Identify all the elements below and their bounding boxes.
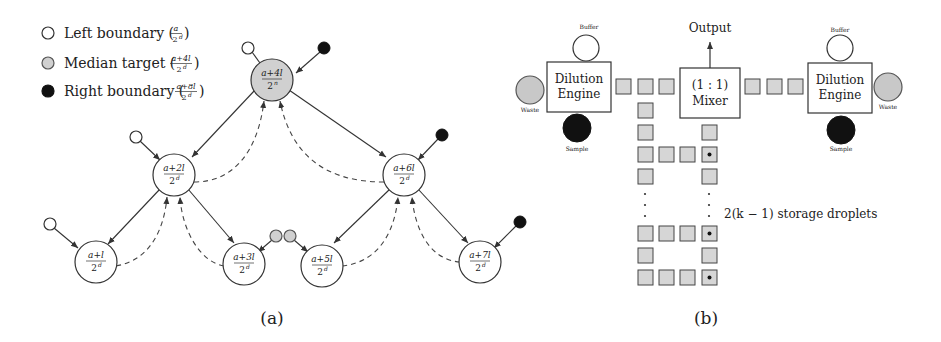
svg-text:d: d (98, 261, 102, 268)
tree-node-level3-1: a+l 2 d (75, 241, 117, 283)
svg-text:2: 2 (399, 176, 405, 186)
waste-label: Waste (521, 106, 540, 113)
storage-label: 2(k − 1) storage droplets (724, 207, 877, 221)
svg-text:2: 2 (169, 176, 175, 186)
gray-circle-icon (270, 230, 282, 242)
svg-text:d: d (246, 263, 250, 270)
svg-text:a+5l: a+5l (311, 254, 333, 264)
buffer-reservoir-icon (573, 35, 599, 61)
svg-text:d: d (324, 265, 328, 272)
black-circle-icon (318, 42, 330, 54)
panel-a: Left boundary ( a 2 d ) Median target ( … (42, 24, 526, 328)
dilution-engine-right: Buffer Dilution Engine Waste Sample (808, 26, 902, 153)
svg-text:Dilution: Dilution (816, 73, 865, 87)
waste-reservoir-icon (874, 73, 902, 101)
svg-text:a+2l: a+2l (163, 163, 185, 173)
sample-label: Sample (830, 145, 853, 153)
sample-reservoir-icon (827, 116, 855, 144)
tree-node-level3-3: a+5l 2 d (301, 245, 343, 287)
svg-text:a+7l: a+7l (469, 250, 491, 260)
svg-text:n: n (274, 79, 278, 86)
waste-reservoir-icon (516, 76, 544, 104)
svg-text:2: 2 (317, 267, 323, 277)
svg-text:a+3l: a+3l (233, 252, 255, 262)
svg-text:d: d (176, 174, 180, 181)
svg-text:a+6l: a+6l (393, 163, 415, 173)
svg-text:a+4l: a+4l (261, 68, 283, 78)
svg-text:2: 2 (181, 93, 186, 102)
caption-b: (b) (694, 308, 718, 328)
tree-node-root: a+4l 2 n (251, 59, 293, 101)
tree-node-level3-4: a+7l 2 d (459, 241, 501, 283)
output-label: Output (689, 21, 732, 35)
gray-circle-icon (284, 230, 296, 242)
svg-text:d: d (183, 63, 187, 70)
ellipsis-dots (644, 193, 710, 217)
svg-text:a: a (174, 24, 179, 33)
waste-label: Waste (879, 103, 898, 110)
buffer-label: Buffer (580, 23, 599, 30)
svg-text:d: d (482, 261, 486, 268)
svg-text:Dilution: Dilution (555, 72, 604, 86)
caption-a: (a) (260, 308, 283, 328)
svg-text:): ) (184, 25, 189, 41)
svg-text:2: 2 (475, 263, 481, 273)
sample-label: Sample (566, 145, 589, 153)
buffer-label: Buffer (831, 26, 850, 33)
svg-text:2: 2 (172, 35, 177, 44)
sample-reservoir-icon (563, 114, 591, 142)
svg-text:d: d (179, 33, 183, 40)
svg-text:): ) (199, 83, 204, 99)
buffer-reservoir-icon (827, 35, 853, 61)
tree-node-level2-left: a+2l 2 d (153, 154, 195, 196)
tree-node-level2-right: a+6l 2 d (383, 154, 425, 196)
svg-text:Engine: Engine (819, 88, 862, 102)
svg-text:2: 2 (267, 81, 273, 91)
legend: Left boundary ( a 2 d ) Median target ( … (42, 24, 204, 102)
figure-canvas: Left boundary ( a 2 d ) Median target ( … (0, 0, 941, 342)
black-circle-icon (436, 129, 448, 141)
legend-label: Median target ( (64, 55, 175, 71)
svg-text:): ) (194, 55, 199, 71)
svg-text:a+8l: a+8l (176, 82, 196, 91)
svg-text:a+l: a+l (88, 250, 104, 260)
white-circle-icon (44, 218, 56, 230)
white-circle-icon (130, 131, 142, 143)
svg-text:2: 2 (176, 65, 181, 74)
mixer: Output (1 : 1) Mixer (680, 21, 740, 118)
black-circle-icon (42, 85, 54, 97)
svg-text:Engine: Engine (558, 87, 601, 101)
svg-text:d: d (406, 174, 410, 181)
svg-text:2: 2 (239, 265, 245, 275)
svg-text:(1 : 1): (1 : 1) (692, 78, 728, 92)
svg-text:a+4l: a+4l (171, 54, 191, 63)
white-circle-icon (42, 27, 54, 39)
legend-item-right-boundary: Right boundary ( a+8l 2 d ) (42, 82, 204, 102)
legend-label: Right boundary ( (64, 83, 184, 99)
gray-circle-icon (42, 57, 54, 69)
svg-text:2: 2 (91, 263, 97, 273)
panel-b: Buffer Dilution Engine Waste Sample Outp… (516, 21, 902, 328)
black-circle-icon (514, 216, 526, 228)
legend-label: Left boundary ( (64, 25, 174, 41)
tree-node-level3-2: a+3l 2 d (223, 243, 265, 285)
white-circle-icon (242, 42, 254, 54)
svg-text:Mixer: Mixer (692, 94, 728, 108)
legend-item-median-target: Median target ( a+4l 2 d ) (42, 54, 199, 74)
dilution-engine-left: Buffer Dilution Engine Waste Sample (516, 23, 611, 153)
svg-text:d: d (188, 91, 192, 98)
legend-item-left-boundary: Left boundary ( a 2 d ) (42, 24, 189, 44)
